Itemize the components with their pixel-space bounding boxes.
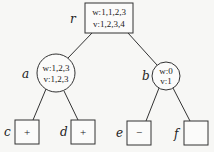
leaf-f-box [184, 121, 208, 145]
node-root-label: r [70, 12, 77, 26]
edge-b-f [173, 88, 190, 121]
node-a: a w:1,2,3 v:1,2,3 [22, 54, 75, 92]
leaf-d: d + [60, 120, 95, 144]
node-a-w: w:1,2,3 [43, 63, 71, 73]
leaf-e-value: − [136, 126, 142, 138]
edge-r-b [128, 33, 157, 65]
node-a-v: v:1,2,3 [43, 74, 69, 84]
node-b: b w:0 v:1 [142, 62, 180, 90]
leaf-d-value: + [80, 126, 86, 138]
leaf-e: e − [116, 121, 151, 145]
leaf-c-label: c [4, 125, 11, 139]
node-root-w: w:1,1,2,3 [92, 7, 126, 17]
node-root: r w:1,1,2,3 v:1,2,3,4 [70, 3, 133, 33]
node-b-label: b [142, 69, 150, 83]
leaf-d-label: d [60, 125, 68, 139]
leaf-f: f [173, 121, 208, 145]
node-a-circle [37, 54, 75, 92]
node-b-v: v:1 [160, 76, 172, 86]
edge-a-d [64, 91, 78, 120]
node-root-v: v:1,2,3,4 [93, 19, 125, 29]
node-b-w: w:0 [159, 66, 173, 76]
edge-a-c [33, 89, 46, 120]
leaf-c-value: + [24, 126, 30, 138]
tree-diagram: r w:1,1,2,3 v:1,2,3,4 a w:1,2,3 v:1,2,3 … [0, 0, 214, 152]
edge-r-a [68, 33, 92, 58]
leaf-c: c + [4, 120, 39, 144]
edge-b-e [146, 88, 159, 121]
leaf-e-label: e [116, 126, 123, 140]
leaf-f-label: f [173, 127, 181, 141]
node-a-label: a [22, 67, 29, 81]
